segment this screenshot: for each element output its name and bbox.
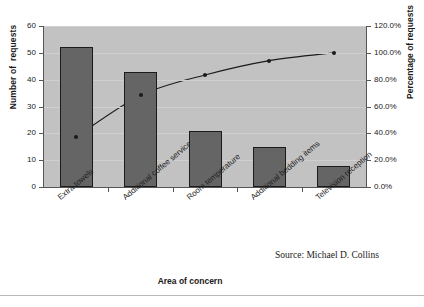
y-axis-right-tick: [367, 53, 371, 54]
y-axis-left-tick: [39, 53, 43, 54]
y-axis-left-tick: [39, 133, 43, 134]
y-axis-right-tick-label: 20.0%: [374, 155, 420, 164]
y-axis-right-tick-label: 120.0%: [374, 21, 420, 30]
y-axis-left-tick: [39, 80, 43, 81]
cumulative-data-point: [332, 51, 336, 55]
y-axis-right-tick: [367, 187, 371, 188]
x-axis-tick: [108, 188, 109, 192]
y-axis-left-tick-label: 10: [2, 155, 36, 164]
y-axis-right-tick: [367, 107, 371, 108]
y-axis-left-tick: [39, 107, 43, 108]
cumulative-percentage-line: [76, 53, 334, 137]
x-axis-title: Area of concern: [120, 276, 260, 286]
y-axis-left-tick: [39, 26, 43, 27]
y-axis-right-tick-label: 80.0%: [374, 75, 420, 84]
cumulative-data-point: [139, 93, 143, 97]
y-axis-left-tick-label: 30: [2, 102, 36, 111]
y-axis-right-tick: [367, 80, 371, 81]
y-axis-left-tick-label: 50: [2, 48, 36, 57]
y-axis-left-tick-label: 60: [2, 21, 36, 30]
y-axis-left-spine: [43, 26, 44, 188]
gridline: [44, 26, 366, 27]
cumulative-data-point: [74, 135, 78, 139]
y-axis-right-tick: [367, 26, 371, 27]
x-axis-tick: [237, 188, 238, 192]
x-axis-tick: [173, 188, 174, 192]
source-note: Source: Michael D. Collins: [275, 250, 379, 260]
y-axis-left-tick-label: 20: [2, 128, 36, 137]
footer-divider: [0, 295, 424, 296]
y-axis-right-tick-label: 100.0%: [374, 48, 420, 57]
y-axis-left-tick: [39, 160, 43, 161]
x-axis-tick: [302, 188, 303, 192]
cumulative-data-point: [203, 73, 207, 77]
y-axis-right-tick-label: 40.0%: [374, 128, 420, 137]
bar: [60, 47, 93, 187]
y-axis-right-tick: [367, 133, 371, 134]
cumulative-data-point: [267, 59, 271, 63]
y-axis-right-tick-label: 60.0%: [374, 102, 420, 111]
y-axis-left-tick: [39, 187, 43, 188]
y-axis-left-tick-label: 0: [2, 182, 36, 191]
y-axis-right-tick-label: 0.0%: [374, 182, 420, 191]
y-axis-left-tick-label: 40: [2, 75, 36, 84]
pareto-chart-figure: Number of requests Percentage of request…: [0, 0, 424, 307]
